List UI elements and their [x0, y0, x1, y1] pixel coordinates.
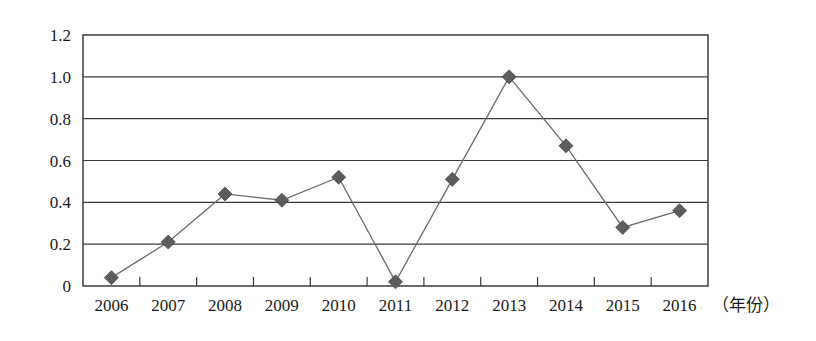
x-tick-label: 2016 [663, 296, 697, 315]
x-tick-label: 2009 [265, 296, 299, 315]
x-tick-label: 2011 [379, 296, 412, 315]
y-tick-label: 0 [63, 277, 72, 296]
y-tick-label: 0.4 [50, 193, 72, 212]
data-point-marker [104, 271, 118, 285]
y-axis-tick-labels: 00.20.40.60.81.01.2 [50, 26, 72, 296]
x-tick-label: 2006 [94, 296, 128, 315]
data-point-marker [389, 275, 403, 289]
gridlines [83, 77, 708, 244]
x-tick-label: 2014 [549, 296, 584, 315]
data-point-marker [502, 70, 516, 84]
data-series-line [111, 77, 679, 282]
y-tick-label: 0.6 [50, 152, 71, 171]
y-tick-label: 0.8 [50, 110, 71, 129]
y-tick-label: 1.2 [50, 26, 71, 45]
data-point-markers [104, 70, 686, 289]
x-axis-tick-labels: 2006200720082009201020112012201320142015… [94, 296, 696, 315]
data-point-marker [616, 220, 630, 234]
data-point-marker [275, 193, 289, 207]
chart-svg: 00.20.40.60.81.01.2 20062007200820092010… [0, 0, 816, 341]
x-tick-label: 2007 [151, 296, 186, 315]
data-point-marker [332, 170, 346, 184]
data-point-marker [673, 204, 687, 218]
x-tick-label: 2008 [208, 296, 242, 315]
data-point-marker [559, 139, 573, 153]
x-tick-label: 2015 [606, 296, 640, 315]
data-point-marker [445, 172, 459, 186]
line-chart: 00.20.40.60.81.01.2 20062007200820092010… [0, 0, 816, 341]
y-tick-label: 1.0 [50, 68, 71, 87]
y-tick-label: 0.2 [50, 235, 71, 254]
x-axis-title: （年份） [712, 296, 780, 315]
x-tick-label: 2012 [435, 296, 469, 315]
x-tick-label: 2010 [322, 296, 356, 315]
x-tick-label: 2013 [492, 296, 526, 315]
chart-page: 00.20.40.60.81.01.2 20062007200820092010… [0, 0, 816, 341]
